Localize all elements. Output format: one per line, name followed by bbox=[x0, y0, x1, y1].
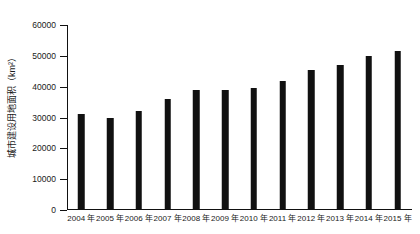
bar-slot bbox=[268, 25, 297, 210]
bar bbox=[193, 90, 200, 210]
x-axis-tick-label: 2004 年 bbox=[67, 212, 95, 223]
bar-slot bbox=[125, 25, 154, 210]
y-axis-tick-label: 40000 bbox=[14, 82, 56, 92]
y-axis-tick bbox=[60, 179, 67, 180]
x-axis-tick-label: 2015 年 bbox=[384, 212, 412, 223]
bar bbox=[337, 65, 344, 210]
x-axis-tick-label: 2009 年 bbox=[211, 212, 239, 223]
bar-slot bbox=[153, 25, 182, 210]
x-axis-labels: 2004 年2005 年2006 年2007 年2008 年2009 年2010… bbox=[67, 212, 412, 228]
bar-slot bbox=[326, 25, 355, 210]
x-axis-tick-label: 2014 年 bbox=[355, 212, 383, 223]
y-axis-tick bbox=[60, 25, 67, 26]
bar-slot bbox=[67, 25, 96, 210]
bar-slot bbox=[240, 25, 269, 210]
y-axis-tick-label: 30000 bbox=[14, 113, 56, 123]
bar-slot bbox=[182, 25, 211, 210]
bar-slot bbox=[211, 25, 240, 210]
x-axis-tick-label: 2007 年 bbox=[154, 212, 182, 223]
bar bbox=[279, 81, 286, 211]
bars-layer bbox=[67, 25, 412, 210]
y-axis-tick bbox=[60, 118, 67, 119]
y-axis-tick bbox=[60, 210, 67, 211]
bar bbox=[164, 99, 171, 210]
bar-slot bbox=[297, 25, 326, 210]
y-axis-title-text: 城市建设用地面积（km²） bbox=[5, 53, 18, 158]
bar bbox=[107, 118, 114, 211]
bar bbox=[394, 51, 401, 210]
y-axis-tick-label: 20000 bbox=[14, 143, 56, 153]
bar-chart: 城市建设用地面积（km²） 2004 年2005 年2006 年2007 年20… bbox=[0, 0, 420, 234]
x-axis-tick-label: 2008 年 bbox=[182, 212, 210, 223]
x-axis-tick-label: 2012 年 bbox=[297, 212, 325, 223]
y-axis-tick-label: 60000 bbox=[14, 20, 56, 30]
bar bbox=[251, 88, 258, 210]
bar-slot bbox=[96, 25, 125, 210]
x-axis-tick-label: 2005 年 bbox=[96, 212, 124, 223]
y-axis-tick-label: 10000 bbox=[14, 174, 56, 184]
y-axis-tick bbox=[60, 148, 67, 149]
x-axis-tick-label: 2013 年 bbox=[326, 212, 354, 223]
y-axis-tick-label: 50000 bbox=[14, 51, 56, 61]
y-axis-tick-label: 0 bbox=[14, 205, 56, 215]
bar-slot bbox=[383, 25, 412, 210]
x-axis-tick-label: 2011 年 bbox=[269, 212, 296, 223]
y-axis-tick bbox=[60, 87, 67, 88]
x-axis-tick-label: 2006 年 bbox=[125, 212, 153, 223]
bar bbox=[222, 90, 229, 210]
bar-slot bbox=[355, 25, 384, 210]
bar bbox=[366, 56, 373, 210]
bar bbox=[308, 70, 315, 210]
y-axis-tick bbox=[60, 56, 67, 57]
bar bbox=[78, 114, 85, 210]
x-axis-tick-label: 2010 年 bbox=[240, 212, 268, 223]
bar bbox=[136, 111, 143, 210]
